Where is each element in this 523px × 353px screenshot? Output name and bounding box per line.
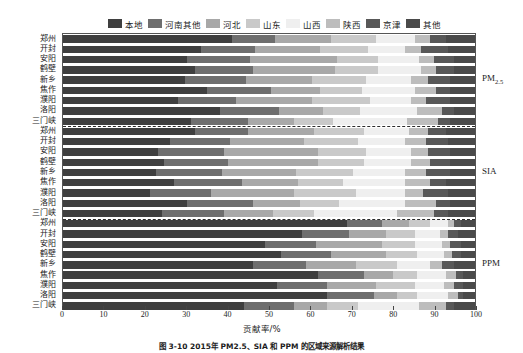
bar-segment[interactable] [318, 271, 363, 278]
stacked-bar[interactable] [63, 87, 475, 94]
bar-segment[interactable] [397, 210, 434, 217]
bar-segment[interactable] [353, 169, 405, 176]
bar-segment[interactable] [430, 159, 451, 166]
bar-segment[interactable] [170, 138, 230, 145]
bar-segment[interactable] [63, 76, 185, 83]
bar-segment[interactable] [436, 87, 450, 94]
bar-segment[interactable] [452, 251, 460, 258]
bar-segment[interactable] [415, 230, 440, 237]
bar-segment[interactable] [187, 200, 253, 207]
bar-segment[interactable] [185, 76, 247, 83]
bar-segment[interactable] [450, 87, 475, 94]
bar-segment[interactable] [253, 66, 335, 73]
stacked-bar[interactable] [63, 179, 475, 186]
stacked-bar[interactable] [63, 251, 475, 258]
bar-segment[interactable] [312, 97, 370, 104]
bar-segment[interactable] [428, 76, 451, 83]
bar-segment[interactable] [327, 282, 376, 289]
bar-segment[interactable] [174, 179, 242, 186]
stacked-bar[interactable] [63, 241, 475, 248]
bar-segment[interactable] [314, 128, 363, 135]
bar-segment[interactable] [364, 128, 409, 135]
bar-segment[interactable] [156, 169, 222, 176]
bar-segment[interactable] [405, 200, 436, 207]
bar-segment[interactable] [458, 230, 474, 237]
bar-segment[interactable] [450, 200, 475, 207]
bar-segment[interactable] [253, 261, 307, 268]
legend-item[interactable]: 陕西 [326, 18, 361, 30]
bar-segment[interactable] [265, 241, 317, 248]
bar-segment[interactable] [63, 138, 170, 145]
bar-segment[interactable] [306, 261, 355, 268]
bar-segment[interactable] [220, 107, 280, 114]
legend-item[interactable]: 山西 [286, 18, 321, 30]
bar-segment[interactable] [63, 169, 156, 176]
bar-segment[interactable] [415, 35, 429, 42]
bar-segment[interactable] [63, 56, 187, 63]
bar-segment[interactable] [224, 210, 273, 217]
bar-segment[interactable] [428, 128, 447, 135]
stacked-bar[interactable] [63, 159, 475, 166]
bar-segment[interactable] [339, 200, 405, 207]
bar-segment[interactable] [63, 107, 220, 114]
bar-segment[interactable] [294, 189, 356, 196]
bar-segment[interactable] [178, 97, 236, 104]
bar-segment[interactable] [364, 159, 411, 166]
bar-segment[interactable] [63, 241, 265, 248]
bar-segment[interactable] [158, 148, 224, 155]
bar-segment[interactable] [444, 282, 454, 289]
bar-segment[interactable] [434, 56, 455, 63]
bar-segment[interactable] [386, 230, 415, 237]
bar-segment[interactable] [63, 118, 191, 125]
bar-segment[interactable] [248, 118, 293, 125]
bar-segment[interactable] [349, 230, 386, 237]
stacked-bar[interactable] [63, 200, 475, 207]
stacked-bar[interactable] [63, 169, 475, 176]
bar-segment[interactable] [356, 189, 405, 196]
stacked-bar[interactable] [63, 138, 475, 145]
legend-item[interactable]: 河北 [206, 18, 241, 30]
bar-segment[interactable] [228, 159, 319, 166]
bar-segment[interactable] [415, 282, 444, 289]
bar-segment[interactable] [63, 35, 232, 42]
bar-segment[interactable] [405, 179, 430, 186]
bar-segment[interactable] [448, 210, 475, 217]
bar-segment[interactable] [405, 138, 426, 145]
bar-segment[interactable] [343, 179, 405, 186]
bar-segment[interactable] [207, 87, 271, 94]
bar-segment[interactable] [397, 292, 418, 299]
bar-segment[interactable] [248, 128, 314, 135]
bar-segment[interactable] [191, 118, 249, 125]
bar-segment[interactable] [331, 251, 387, 258]
bar-segment[interactable] [448, 138, 475, 145]
bar-segment[interactable] [428, 148, 451, 155]
bar-segment[interactable] [417, 292, 448, 299]
bar-segment[interactable] [298, 179, 343, 186]
bar-segment[interactable] [250, 56, 337, 63]
bar-segment[interactable] [63, 261, 253, 268]
legend-item[interactable]: 本地 [108, 18, 143, 30]
bar-segment[interactable] [407, 118, 438, 125]
bar-segment[interactable] [378, 56, 419, 63]
bar-segment[interactable] [461, 241, 475, 248]
bar-segment[interactable] [454, 66, 475, 73]
bar-segment[interactable] [442, 107, 454, 114]
stacked-bar[interactable] [63, 282, 475, 289]
bar-segment[interactable] [63, 210, 162, 217]
bar-segment[interactable] [405, 169, 426, 176]
bar-segment[interactable] [279, 107, 322, 114]
bar-segment[interactable] [376, 35, 415, 42]
bar-segment[interactable] [430, 220, 449, 227]
bar-segment[interactable] [446, 302, 454, 309]
bar-segment[interactable] [314, 210, 396, 217]
bar-segment[interactable] [421, 66, 435, 73]
bar-segment[interactable] [450, 118, 475, 125]
bar-segment[interactable] [374, 292, 397, 299]
bar-segment[interactable] [356, 261, 397, 268]
bar-segment[interactable] [162, 210, 224, 217]
bar-segment[interactable] [318, 159, 363, 166]
stacked-bar[interactable] [63, 76, 475, 83]
bar-segment[interactable] [63, 159, 164, 166]
bar-segment[interactable] [415, 87, 436, 94]
bar-segment[interactable] [382, 241, 415, 248]
